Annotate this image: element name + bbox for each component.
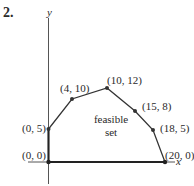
- vertex-label: (4, 10): [60, 83, 89, 94]
- vertex-dot: [105, 86, 109, 90]
- vertex-label: (20, 0): [165, 150, 194, 161]
- vertex-dot: [70, 97, 74, 101]
- vertex-dot: [47, 127, 51, 131]
- y-axis-label: y: [47, 7, 52, 18]
- vertex-dot: [151, 128, 155, 132]
- vertex-label: (0, 0): [22, 150, 46, 161]
- vertex-dot: [46, 160, 50, 164]
- region-label-line: set: [88, 126, 134, 139]
- vertex-label: (15, 8): [142, 101, 171, 112]
- region-label-line: feasible: [88, 113, 134, 126]
- vertex-label: (10, 12): [107, 75, 142, 86]
- vertex-label: (0, 5): [22, 123, 46, 134]
- vertex-label: (18, 5): [160, 123, 189, 134]
- region-label: feasible set: [88, 113, 134, 138]
